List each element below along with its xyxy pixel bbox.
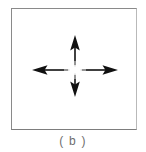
figure-panel bbox=[11, 8, 137, 130]
four-way-arrow-diagram bbox=[12, 9, 138, 131]
up-arrow-icon bbox=[70, 35, 80, 65]
left-arrow-icon bbox=[32, 65, 68, 75]
center-gap-marker bbox=[64, 61, 86, 79]
figure-root: ( b ) bbox=[0, 0, 146, 152]
figure-caption: ( b ) bbox=[0, 131, 146, 152]
right-arrow-icon bbox=[82, 65, 118, 75]
